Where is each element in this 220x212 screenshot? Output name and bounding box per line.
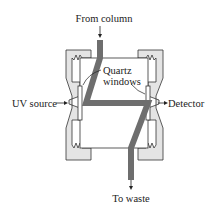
left-quartz-window — [78, 86, 82, 120]
outlet-label: To waste — [112, 193, 150, 204]
windows-label-line2: windows — [103, 76, 141, 87]
detector-label: Detector — [168, 98, 205, 109]
windows-label-line1: Quartz — [103, 65, 132, 76]
source-arrow — [56, 101, 68, 105]
detector-arrow — [158, 101, 168, 105]
inlet-label: From column — [76, 13, 134, 24]
source-label: UV source — [12, 98, 57, 109]
inlet-arrow — [98, 26, 102, 38]
outlet-arrow — [129, 180, 133, 190]
flow-cell-diagram: From column To waste Quartz windows UV s… — [0, 0, 220, 212]
